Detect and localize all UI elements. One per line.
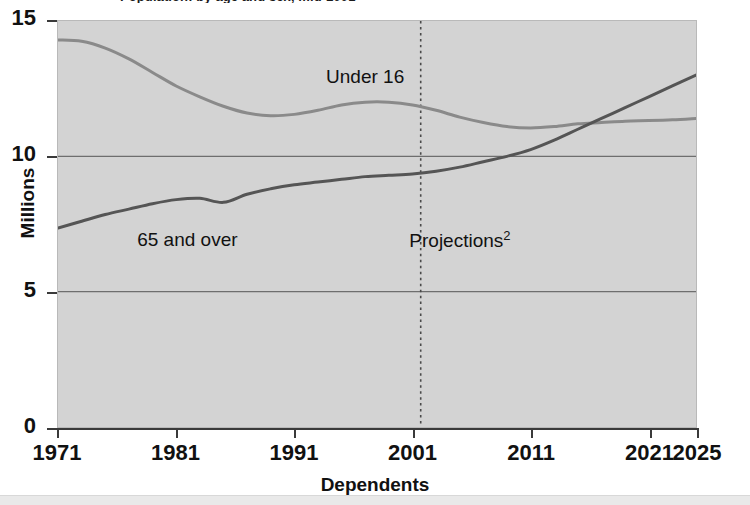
x-tick-mark <box>650 428 652 438</box>
footer-band <box>0 495 750 505</box>
x-tick-mark <box>413 428 415 438</box>
x-tick-mark <box>57 428 59 438</box>
x-tick-mark <box>697 428 699 438</box>
series-annotation-text: Under 16 <box>326 66 404 87</box>
series-annotation: 65 and over <box>137 229 237 251</box>
y-tick-mark <box>47 428 57 430</box>
y-tick-mark <box>47 20 57 22</box>
page-title: Population: by age and sex, mid-2001 <box>120 0 640 3</box>
x-axis-line <box>57 428 698 430</box>
x-tick-mark <box>294 428 296 438</box>
y-tick-mark <box>47 292 57 294</box>
x-tick-label: 1981 <box>151 440 200 466</box>
series-line <box>58 75 696 228</box>
series-annotation: Under 16 <box>326 66 404 88</box>
series-annotation: Projections2 <box>409 228 510 252</box>
x-tick-label: 1971 <box>33 440 82 466</box>
y-axis-label: Millions <box>17 143 39 263</box>
x-tick-mark <box>531 428 533 438</box>
series-annotation-text: 65 and over <box>137 229 237 250</box>
x-axis-label: Dependents <box>0 474 750 496</box>
x-tick-label: 2001 <box>388 440 437 466</box>
y-tick-label-text: 5 <box>24 277 36 303</box>
x-tick-label: 2011 <box>507 440 555 466</box>
y-tick-label-text: 0 <box>24 413 36 439</box>
y-tick-mark <box>47 156 57 158</box>
x-tick-label: 1991 <box>270 440 319 466</box>
x-tick-label: 2025 <box>673 440 722 466</box>
series-annotation-text: Projections <box>409 230 503 251</box>
y-tick-label-text: 15 <box>12 5 36 31</box>
x-tick-label: 2021 <box>625 440 674 466</box>
x-tick-mark <box>176 428 178 438</box>
footnote-marker: 2 <box>503 228 510 243</box>
